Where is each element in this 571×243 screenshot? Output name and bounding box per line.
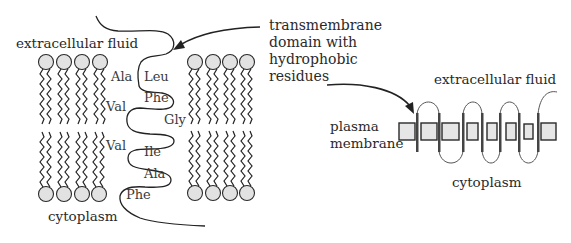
arrow-to-left-domain xyxy=(180,27,260,45)
residue-label: Ala xyxy=(110,69,133,84)
residue-label: Gly xyxy=(164,112,187,127)
residue-label: Phe xyxy=(126,187,151,202)
right-extracellular-label: extracellular fluid xyxy=(434,71,557,87)
residue-label: Ile xyxy=(144,144,161,159)
left-cytoplasm-label: cytoplasm xyxy=(48,208,118,224)
residue-label: Leu xyxy=(144,69,169,84)
residue-label: Phe xyxy=(144,90,169,105)
annotation-line: domain with xyxy=(269,34,357,50)
lipid-bilayer-right xyxy=(188,55,255,201)
plasma-membrane-label-line-1: plasma xyxy=(330,118,379,134)
residue-label: Val xyxy=(105,99,126,114)
arrowhead-icon xyxy=(405,102,414,114)
residue-label: Val xyxy=(105,138,126,153)
residue-labels: Ala Leu Val Phe Gly Val Ile Ala Phe xyxy=(105,69,187,202)
lipid-bilayer-left xyxy=(39,55,108,202)
left-diagram: extracellular fluid cytoplasm xyxy=(16,16,255,226)
right-diagram: extracellular fluid plasma membrane cyto… xyxy=(330,71,557,190)
plasma-membrane-label-line-2: membrane xyxy=(330,135,403,151)
arrowhead-icon xyxy=(173,40,185,50)
annotation-line: residues xyxy=(269,68,329,84)
right-cytoplasm-label: cytoplasm xyxy=(452,174,522,190)
left-extracellular-label: extracellular fluid xyxy=(16,35,139,51)
arrow-to-right-domain xyxy=(327,84,410,106)
annotation-line: transmembrane xyxy=(269,17,382,33)
membrane-protein-diagram: extracellular fluid cytoplasm xyxy=(0,0,571,243)
annotation-line: hydrophobic xyxy=(269,51,358,67)
residue-label: Ala xyxy=(143,166,166,181)
membrane-segments xyxy=(399,123,556,140)
